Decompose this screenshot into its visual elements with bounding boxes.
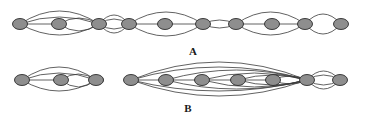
graph-node — [195, 75, 210, 86]
graph-node — [231, 75, 246, 86]
graph-node — [89, 75, 104, 86]
graph-node — [13, 19, 28, 30]
graph-node — [333, 75, 348, 86]
panel-label-b: B — [184, 102, 192, 114]
graph-node — [229, 19, 244, 30]
graph-edge — [131, 67, 307, 80]
graph-node — [54, 75, 69, 86]
graph-node — [124, 75, 139, 86]
graph-node — [15, 75, 30, 86]
panel-label-a: A — [189, 45, 197, 57]
panel-b-edges — [22, 62, 340, 96]
graph-node — [92, 19, 107, 30]
panel-a-edges — [20, 11, 341, 36]
figure-root: A B — [0, 0, 370, 124]
graph-node — [122, 19, 137, 30]
graph-node — [159, 75, 174, 86]
graph-diagram-svg: A B — [0, 0, 370, 124]
graph-node — [265, 19, 280, 30]
graph-node — [196, 19, 211, 30]
graph-node — [298, 19, 313, 30]
graph-node — [300, 75, 315, 86]
graph-node — [334, 19, 349, 30]
graph-node — [158, 19, 173, 30]
graph-node — [52, 19, 67, 30]
graph-node — [266, 75, 281, 86]
